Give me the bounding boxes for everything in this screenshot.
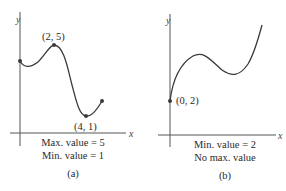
panel-a-y-label: y — [15, 14, 21, 25]
panel-a-max-value-text: Max. value = 5 — [13, 136, 133, 149]
panel-a-start-point — [18, 59, 22, 63]
panel-a-graph: y x (2, 5) (4, 1) — [10, 12, 134, 146]
panel-b-max-value-text: No max. value — [165, 151, 285, 164]
panel-a-min-label: (4, 1) — [74, 121, 97, 133]
panel-b-curve — [170, 25, 262, 101]
panel-a-tag: (a) — [13, 167, 133, 180]
panel-a-end-point — [100, 99, 104, 103]
panel-b-caption: Min. value = 2 No max. value (b) — [165, 138, 285, 182]
panel-a-min-value-text: Min. value = 1 — [13, 149, 133, 162]
panel-b-min-label: (0, 2) — [176, 95, 199, 107]
panel-b-min-value-text: Min. value = 2 — [165, 138, 285, 151]
panel-a-caption: Max. value = 5 Min. value = 1 (a) — [13, 136, 133, 180]
panel-a-max-point — [52, 43, 56, 47]
panel-b-min-point — [168, 99, 172, 103]
panel-a-min-point — [84, 114, 88, 118]
panel-b-graph: y x (0, 2) — [158, 14, 283, 147]
panel-b-y-label: y — [165, 15, 171, 26]
panel-a-curve — [20, 45, 102, 116]
panel-b-tag: (b) — [165, 169, 285, 182]
panel-a-max-label: (2, 5) — [42, 31, 65, 43]
